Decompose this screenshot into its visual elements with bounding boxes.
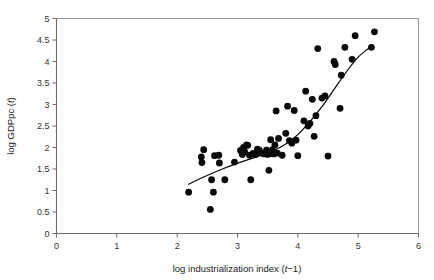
data-point-marker [307, 120, 314, 127]
fit-curve-path [188, 45, 373, 184]
x-axis-label: log industrialization index (t−1) [173, 263, 302, 274]
x-tick-label: 3 [235, 241, 240, 251]
y-tick-label: 0.5 [37, 207, 50, 217]
data-point-marker [265, 167, 272, 174]
y-tick-label: 5 [44, 14, 49, 24]
data-point-marker [349, 56, 356, 63]
data-point-marker [284, 103, 291, 110]
data-point-marker [200, 146, 207, 153]
y-tick-label: 3 [44, 100, 49, 110]
data-point-marker [368, 44, 375, 51]
data-point-marker [311, 133, 318, 140]
x-axis-ticks: 0123456 [54, 234, 421, 251]
x-tick-label: 6 [416, 241, 421, 251]
fitted-curve [188, 45, 373, 184]
y-axis-label: log GDPpc (t) [5, 97, 16, 155]
data-point-marker [275, 135, 282, 142]
data-point-marker [216, 160, 223, 167]
data-points [185, 28, 378, 212]
data-point-marker [247, 176, 254, 183]
data-point-marker [221, 176, 228, 183]
data-point-marker [371, 28, 378, 35]
data-point-marker [293, 137, 300, 144]
data-point-marker [272, 142, 279, 149]
italic-t: t [285, 263, 288, 274]
y-tick-label: 2 [44, 143, 49, 153]
data-point-marker [338, 72, 345, 79]
data-point-marker [341, 44, 348, 51]
data-point-marker [185, 189, 192, 196]
data-point-marker [313, 112, 320, 119]
y-tick-label: 2.5 [37, 121, 50, 131]
data-point-marker [352, 32, 359, 39]
data-point-marker [215, 152, 222, 159]
x-tick-label: 2 [175, 241, 180, 251]
plot-frame [57, 19, 419, 234]
x-tick-label: 0 [54, 241, 59, 251]
x-tick-label: 5 [356, 241, 361, 251]
data-point-marker [291, 107, 298, 114]
data-point-marker [309, 96, 316, 103]
data-point-marker [302, 88, 309, 95]
y-tick-label: 1 [44, 186, 49, 196]
data-point-marker [231, 159, 238, 166]
data-point-marker [314, 45, 321, 52]
y-tick-label: 3.5 [37, 78, 50, 88]
scatter-plot-figure: 0123456 00.511.522.533.544.55 log indust… [0, 0, 434, 280]
data-point-marker [207, 206, 214, 213]
data-point-marker [210, 189, 217, 196]
y-tick-label: 4 [44, 57, 49, 67]
y-tick-label: 1.5 [37, 164, 50, 174]
data-point-marker [208, 176, 215, 183]
y-tick-label: 4.5 [37, 35, 50, 45]
data-point-marker [244, 142, 251, 149]
plot-canvas: 0123456 00.511.522.533.544.55 log indust… [0, 0, 434, 280]
data-point-marker [279, 152, 286, 159]
data-point-marker [273, 108, 280, 115]
x-tick-label: 1 [114, 241, 119, 251]
y-axis-ticks: 00.511.522.533.544.55 [37, 14, 57, 239]
data-point-marker [322, 93, 329, 100]
data-point-marker [325, 153, 332, 160]
x-tick-label: 4 [295, 241, 300, 251]
data-point-marker [199, 159, 206, 166]
data-point-marker [282, 130, 289, 137]
italic-t: t [5, 100, 16, 103]
y-tick-label: 0 [44, 229, 49, 239]
data-point-marker [332, 61, 339, 68]
data-point-marker [337, 105, 344, 112]
data-point-marker [294, 152, 301, 159]
